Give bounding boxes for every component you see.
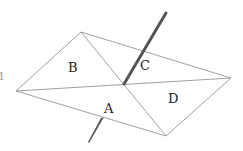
plane-diagram: B C A D 1 [0, 0, 243, 151]
rod-upper [124, 13, 166, 84]
label-d: D [168, 91, 178, 106]
left-edge-mark: 1 [0, 70, 5, 83]
label-c: C [140, 58, 150, 73]
label-b: B [68, 60, 78, 75]
label-a: A [103, 101, 114, 116]
rod-lower [88, 117, 104, 143]
